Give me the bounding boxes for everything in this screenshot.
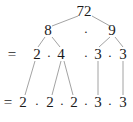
factor: 2	[33, 47, 41, 62]
multiply-dot: ·	[108, 96, 112, 111]
prime-factor: 2	[46, 95, 54, 110]
multiply-dot: ·	[60, 96, 64, 111]
multiply-dot: ·	[84, 48, 88, 63]
prime-factor: 2	[70, 95, 78, 110]
prime-factor: 3	[94, 95, 102, 110]
prime-factor: 3	[119, 95, 127, 110]
equals-sign: =	[4, 95, 12, 110]
multiply-dot: ·	[84, 24, 88, 39]
factor-8: 8	[44, 23, 52, 38]
prime-factor: 2	[19, 95, 27, 110]
root-number: 72	[77, 4, 92, 19]
factor: 3	[94, 47, 102, 62]
factor: 3	[119, 47, 127, 62]
factor: 4	[57, 47, 65, 62]
multiply-dot: ·	[84, 96, 88, 111]
multiply-dot: ·	[108, 48, 112, 63]
multiply-dot: ·	[47, 48, 51, 63]
equals-sign: =	[8, 47, 16, 62]
factor-9: 9	[108, 23, 116, 38]
multiply-dot: ·	[35, 96, 39, 111]
